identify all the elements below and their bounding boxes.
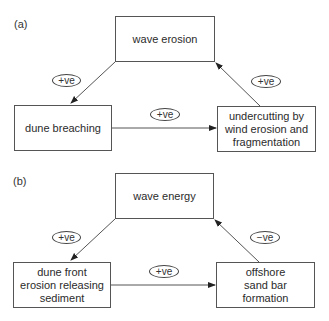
node-text: wave erosion [133, 33, 198, 46]
node-text: fragmentation [225, 136, 308, 149]
node-text: wave energy [133, 190, 195, 203]
node-dune-breaching: dune breaching [14, 105, 112, 151]
node-text: offshore [243, 266, 289, 279]
sign-b-left-to-right: +ve [149, 265, 179, 278]
node-dune-front-erosion: dune front erosion releasing sediment [13, 262, 111, 308]
panel-label-b: (b) [13, 175, 26, 187]
sign-b-right-to-top: −ve [250, 231, 280, 244]
node-wave-energy: wave energy [115, 173, 214, 219]
sign-b-top-to-left: +ve [52, 231, 81, 244]
node-text: formation [243, 292, 289, 305]
sign-a-top-to-left: +ve [52, 74, 81, 87]
node-text: undercutting by [225, 110, 308, 123]
panel-label-a: (a) [14, 18, 27, 30]
node-text: erosion releasing [20, 279, 104, 292]
node-text: wind erosion and [225, 123, 308, 136]
node-text: dune front [20, 266, 104, 279]
node-wave-erosion: wave erosion [115, 16, 215, 62]
sign-a-left-to-right: +ve [150, 108, 180, 121]
node-text: sand bar [243, 279, 289, 292]
node-text: dune breaching [25, 122, 101, 135]
node-offshore-sand-bar: offshore sand bar formation [216, 262, 315, 308]
node-text: sediment [20, 292, 104, 305]
sign-a-right-to-top: +ve [251, 75, 281, 88]
node-undercutting: undercutting by wind erosion and fragmen… [217, 106, 316, 152]
